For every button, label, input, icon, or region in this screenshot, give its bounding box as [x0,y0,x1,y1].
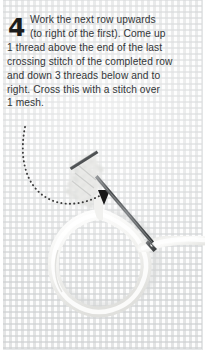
guide-arrow-icon [23,127,110,205]
instruction-card: 4 Work the next row upwards (to right of… [0,0,205,354]
needle-shadow [98,180,154,246]
illustration-foreground [0,0,205,354]
needle-tip-upper [69,151,99,171]
